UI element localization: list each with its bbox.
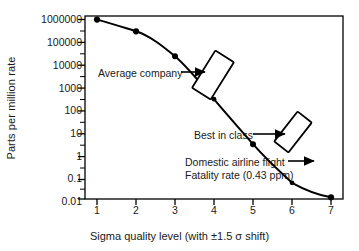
x-major-ticks — [97, 199, 331, 205]
y-minor-ticks — [80, 31, 85, 189]
chart-container: Parts per million rate 1000000 100000 10… — [0, 0, 359, 251]
callout-box-best-in-class — [274, 111, 312, 152]
data-series-line — [97, 20, 331, 198]
callout-box-average-company — [192, 51, 234, 100]
data-point — [133, 28, 139, 34]
plot-frame — [85, 16, 343, 199]
data-point — [328, 194, 334, 200]
y-major-ticks — [78, 20, 85, 200]
data-point — [94, 17, 100, 23]
data-point-markers — [94, 17, 334, 201]
data-point — [250, 141, 256, 147]
data-point — [290, 180, 295, 185]
plot-area — [0, 0, 359, 251]
data-point — [172, 53, 178, 59]
